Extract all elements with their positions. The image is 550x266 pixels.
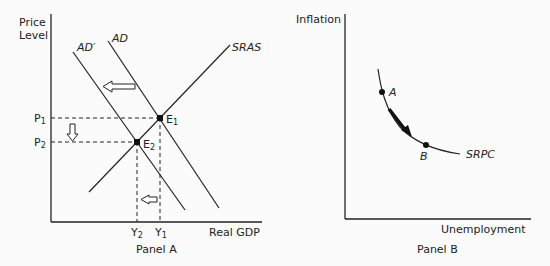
- p1-label: P1: [34, 112, 46, 126]
- panel-a-title: Panel A: [136, 243, 177, 256]
- ad-shift-arrow-icon: [103, 81, 135, 92]
- srpc-label: SRPC: [466, 148, 495, 161]
- e1-point: [157, 115, 163, 121]
- panel-b-title: Panel B: [417, 243, 458, 256]
- price-down-arrow-icon: [67, 124, 78, 141]
- output-left-arrow-icon: [141, 195, 157, 204]
- point-b: [423, 142, 429, 148]
- ad-prime-label: AD′: [76, 41, 96, 54]
- panel-b-x-label: Unemployment: [441, 223, 526, 236]
- ad-label: AD: [111, 32, 128, 45]
- movement-arrow-shaft: [389, 109, 406, 131]
- panel-b-y-label: Inflation: [296, 13, 341, 26]
- point-a-label: A: [388, 86, 397, 99]
- y2-label: Y2: [130, 226, 143, 240]
- panel-b: Inflation Unemployment Panel B SRPC A B: [296, 13, 531, 256]
- e2-point: [134, 139, 140, 145]
- e2-label: E2: [143, 138, 155, 152]
- panel-a: Price Level Real GDP Panel A AD′ AD SRAS…: [19, 14, 262, 256]
- panel-a-y-label-line1: Price: [19, 16, 46, 29]
- y1-label: Y1: [154, 226, 167, 240]
- p2-label: P2: [34, 136, 46, 150]
- point-b-label: B: [420, 150, 428, 163]
- panel-a-y-label-line2: Level: [19, 29, 48, 42]
- sras-label: SRAS: [232, 41, 261, 54]
- point-a: [379, 89, 385, 95]
- e1-label: E1: [166, 113, 178, 127]
- panel-a-x-label: Real GDP: [209, 226, 260, 239]
- diagram-canvas: Price Level Real GDP Panel A AD′ AD SRAS…: [0, 0, 550, 266]
